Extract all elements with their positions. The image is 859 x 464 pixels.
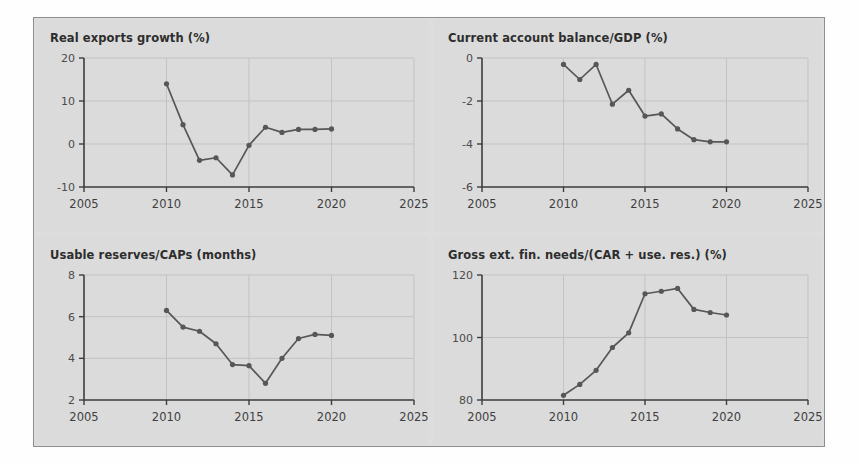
svg-text:-10: -10: [57, 181, 75, 194]
svg-text:2010: 2010: [152, 410, 181, 424]
svg-text:2015: 2015: [234, 197, 263, 211]
svg-text:2005: 2005: [467, 410, 496, 424]
svg-text:120: 120: [452, 269, 473, 282]
svg-text:2020: 2020: [317, 197, 346, 211]
chart-panel-gross-ext-fin-needs: Gross ext. fin. needs/(CAR + use. res.) …: [434, 237, 822, 444]
svg-text:2015: 2015: [234, 410, 263, 424]
svg-text:2010: 2010: [549, 410, 578, 424]
svg-text:2015: 2015: [630, 197, 659, 211]
svg-text:100: 100: [452, 332, 473, 345]
chart-panel-real-exports-growth: Real exports growth (%) -100102020052010…: [36, 20, 428, 231]
chart-panel-current-account-balance: Current account balance/GDP (%) -6-4-202…: [434, 20, 822, 231]
svg-text:2020: 2020: [712, 197, 741, 211]
chart-plot-area: 246820052010201520202025: [36, 237, 428, 444]
svg-text:2025: 2025: [793, 197, 822, 211]
svg-text:0: 0: [466, 52, 473, 65]
figure-root: Real exports growth (%) -100102020052010…: [0, 0, 859, 464]
svg-text:8: 8: [68, 269, 75, 282]
svg-text:10: 10: [61, 95, 75, 108]
svg-text:2020: 2020: [712, 410, 741, 424]
chart-plot-area: -100102020052010201520202025: [36, 20, 428, 231]
svg-text:2025: 2025: [793, 410, 822, 424]
svg-text:2025: 2025: [399, 197, 428, 211]
svg-text:2015: 2015: [630, 410, 659, 424]
svg-text:-6: -6: [462, 181, 473, 194]
svg-text:2005: 2005: [467, 197, 496, 211]
svg-text:-4: -4: [462, 138, 473, 151]
chart-plot-area: 8010012020052010201520202025: [434, 237, 822, 444]
svg-text:20: 20: [61, 52, 75, 65]
svg-text:2005: 2005: [69, 197, 98, 211]
svg-text:2025: 2025: [399, 410, 428, 424]
chart-panel-usable-reserves: Usable reserves/CAPs (months) 2468200520…: [36, 237, 428, 444]
svg-text:80: 80: [459, 394, 473, 407]
svg-text:0: 0: [68, 138, 75, 151]
svg-text:2: 2: [68, 394, 75, 407]
charts-panel: Real exports growth (%) -100102020052010…: [33, 17, 825, 447]
svg-text:2010: 2010: [152, 197, 181, 211]
svg-text:2010: 2010: [549, 197, 578, 211]
svg-text:2020: 2020: [317, 410, 346, 424]
svg-text:6: 6: [68, 311, 75, 324]
chart-plot-area: -6-4-2020052010201520202025: [434, 20, 822, 231]
svg-text:4: 4: [68, 352, 75, 365]
svg-text:2005: 2005: [69, 410, 98, 424]
svg-text:-2: -2: [462, 95, 473, 108]
